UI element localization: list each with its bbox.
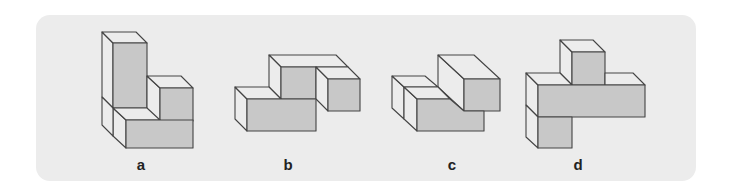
figure-d-drawing (526, 40, 645, 148)
block-figures (0, 0, 731, 192)
figure-label-a: a (137, 156, 145, 173)
figure-label-c: c (448, 156, 456, 173)
figure-b-drawing (235, 55, 360, 131)
figure-label-d: d (573, 156, 582, 173)
figure-label-b: b (283, 156, 292, 173)
figure-c-drawing (392, 55, 500, 131)
figure-a-drawing (102, 32, 193, 148)
